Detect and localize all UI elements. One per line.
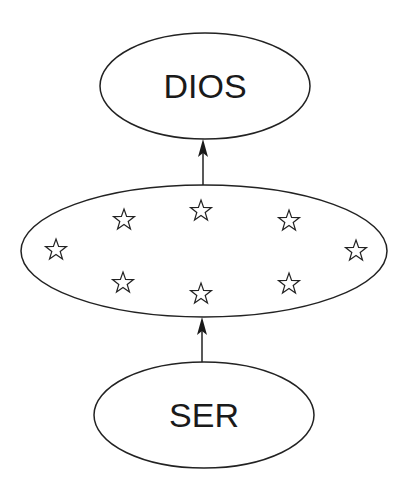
- node-dios: DIOS: [100, 33, 310, 139]
- node-ser: SER: [94, 362, 314, 468]
- node-stars: [21, 185, 387, 317]
- arrow-ser-to-middle: [197, 317, 207, 363]
- ser-label: SER: [169, 396, 239, 434]
- arrow-middle-to-dios: [198, 139, 208, 186]
- dios-label: DIOS: [163, 67, 246, 105]
- diagram-canvas: DIOS SER: [0, 0, 410, 496]
